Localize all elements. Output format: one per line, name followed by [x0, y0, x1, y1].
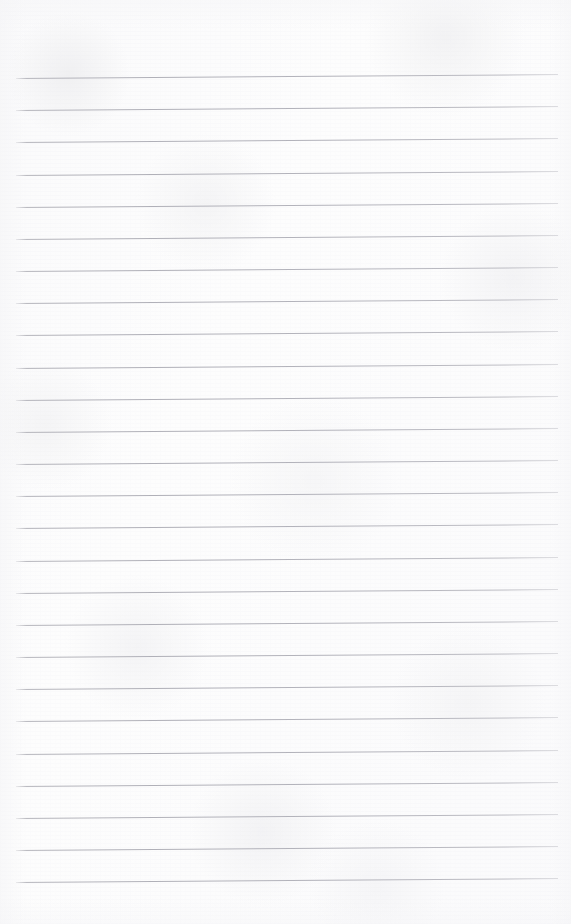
page-line-13[interactable]: [16, 436, 558, 464]
page-line-23[interactable]: [16, 758, 558, 786]
page-line-1[interactable]: [16, 50, 558, 78]
page-line-18[interactable]: [16, 597, 558, 625]
page-line-15[interactable]: [16, 500, 558, 528]
page-line-3[interactable]: [16, 114, 558, 142]
page-line-19[interactable]: [16, 629, 558, 657]
page-line-24[interactable]: [16, 790, 558, 818]
page-line-5[interactable]: [16, 179, 558, 207]
page-line-25[interactable]: [16, 822, 558, 850]
page-line-20[interactable]: [16, 661, 558, 689]
page-line-22[interactable]: [16, 726, 558, 754]
page-line-6[interactable]: [16, 211, 558, 239]
page-line-26[interactable]: [16, 854, 558, 882]
page-line-7[interactable]: [16, 243, 558, 271]
page-line-16[interactable]: [16, 533, 558, 561]
notebook-page: [0, 0, 571, 924]
page-line-9[interactable]: [16, 307, 558, 335]
page-line-21[interactable]: [16, 693, 558, 721]
page-line-4[interactable]: [16, 147, 558, 175]
page-line-2[interactable]: [16, 82, 558, 110]
page-line-11[interactable]: [16, 372, 558, 400]
page-line-17[interactable]: [16, 565, 558, 593]
page-line-10[interactable]: [16, 340, 558, 368]
page-line-8[interactable]: [16, 275, 558, 303]
page-line-12[interactable]: [16, 404, 558, 432]
page-line-14[interactable]: [16, 468, 558, 496]
